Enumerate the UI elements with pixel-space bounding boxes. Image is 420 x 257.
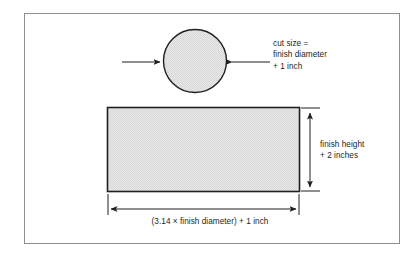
circle-top-piece: [164, 30, 227, 93]
finish-height-line-2: + 2 inches: [320, 150, 364, 161]
cut-size-annotation: cut size = finish diameter + 1 inch: [273, 38, 327, 72]
rectangle-body-piece: [108, 108, 300, 192]
width-dimension-caption: (3.14 × finish diameter) + 1 inch: [0, 216, 420, 227]
cut-size-line-3: + 1 inch: [273, 61, 327, 72]
cut-size-line-1: cut size =: [273, 38, 327, 49]
finish-height-annotation: finish height + 2 inches: [320, 139, 364, 162]
finish-height-line-1: finish height: [320, 139, 364, 150]
figure-root: cut size = finish diameter + 1 inch fini…: [0, 0, 420, 257]
cut-size-line-2: finish diameter: [273, 49, 327, 60]
